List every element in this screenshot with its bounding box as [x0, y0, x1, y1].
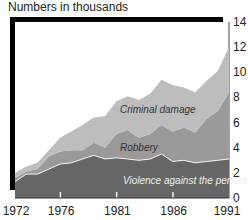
x-tick-label: 1976	[48, 204, 75, 218]
y-tick-label: 14	[233, 15, 247, 29]
y-tick-label: 12	[233, 40, 247, 54]
y-tick-label: 8	[233, 90, 240, 104]
frame-top-bar	[10, 17, 223, 22]
y-tick-label: 4	[233, 141, 240, 155]
x-tick-mark	[60, 192, 62, 198]
y-tick-label: 6	[233, 116, 240, 130]
stacked-area-chart: 0246810121419721976198119861991 Criminal…	[0, 0, 248, 220]
x-tick-label: 1991	[214, 204, 241, 218]
label-violence: Violence against the person	[123, 175, 247, 186]
x-tick-label: 1972	[3, 204, 30, 218]
x-tick-mark	[116, 192, 118, 198]
label-criminal-damage: Criminal damage	[120, 104, 196, 115]
y-tick-label: 0	[233, 191, 240, 205]
frame-left-bar	[10, 17, 15, 190]
x-tick-label: 1986	[160, 204, 187, 218]
x-tick-mark	[172, 192, 174, 198]
label-robbery: Robbery	[120, 142, 159, 153]
x-tick-label: 1981	[104, 204, 131, 218]
y-tick-label: 10	[233, 65, 247, 79]
